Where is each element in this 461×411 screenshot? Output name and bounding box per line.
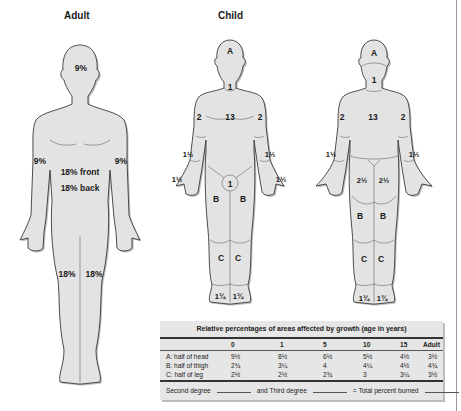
child-front-forearm-right-label: 1½ xyxy=(265,150,275,159)
table-cell: 8½ xyxy=(278,352,287,361)
table-cell: 9½ xyxy=(231,352,240,361)
adult-trunk-front-label: 18% front xyxy=(61,167,100,177)
table-col-header: 1 xyxy=(280,340,284,349)
child-back-upper-arm-left-label: 2 xyxy=(340,112,345,122)
child-front-hand-left-label: 1½ xyxy=(172,175,182,184)
total-blank[interactable] xyxy=(425,387,459,393)
table-col-header: 5 xyxy=(323,340,327,349)
adult-trunk-back-label: 18% back xyxy=(61,183,100,193)
child-back-head-label: A xyxy=(371,48,377,58)
child-front-head-label: A xyxy=(227,46,233,56)
table-divider xyxy=(160,380,443,382)
table-col-header: Adult xyxy=(423,340,440,349)
child-back-forearm-right-label: 1½ xyxy=(409,150,419,159)
child-front-forearm-left-label: 1½ xyxy=(183,150,193,159)
table-cell: 3½ xyxy=(428,352,437,361)
table-cell: 6½ xyxy=(323,352,332,361)
child-back-buttock-left-label: 2½ xyxy=(357,176,367,185)
table-cell: 5½ xyxy=(363,352,372,361)
child-front-genitalia-label: 1 xyxy=(228,179,233,189)
child-title: Child xyxy=(218,10,243,21)
child-front-thigh-right-label: B xyxy=(240,194,246,204)
adult-figure-body xyxy=(20,45,140,384)
child-back-buttock-right-label: 2½ xyxy=(379,176,389,185)
second-degree-label: Second degree xyxy=(166,387,211,394)
child-back-upper-arm-right-label: 2 xyxy=(401,112,406,122)
table-cell: 4 xyxy=(323,361,327,370)
adult-head-label: 9% xyxy=(75,63,87,73)
table-title: Relative percentages of areas affected b… xyxy=(160,323,443,335)
table-cell: 3¼ xyxy=(400,370,409,379)
table-divider xyxy=(160,337,443,339)
table-divider xyxy=(160,350,443,351)
table-cell: 2¾ xyxy=(323,370,332,379)
child-front-foot-right-label: 1¾ xyxy=(233,292,243,301)
child-front-trunk-label: 13 xyxy=(225,112,234,122)
child-back-forearm-left-label: 1½ xyxy=(326,150,336,159)
table-row-label: A: half of head xyxy=(166,352,209,361)
table-cell: 2½ xyxy=(231,370,240,379)
table-cell: 4¼ xyxy=(363,361,372,370)
second-degree-blank[interactable] xyxy=(217,387,251,393)
table-col-header: 0 xyxy=(231,340,235,349)
right-divider-line xyxy=(456,0,457,411)
child-front-upper-arm-right-label: 2 xyxy=(258,112,263,122)
table-row-label: B: half of thigh xyxy=(166,361,208,370)
table-cell: 4¾ xyxy=(428,361,437,370)
table-cell: 4½ xyxy=(400,352,409,361)
child-front-neck-label: 1 xyxy=(228,82,233,92)
table-col-header: 10 xyxy=(363,340,370,349)
table-cell: 3¼ xyxy=(278,361,287,370)
child-back-trunk-label: 13 xyxy=(368,112,377,122)
third-degree-label: and Third degree xyxy=(257,387,307,394)
child-front-leg-right-label: C xyxy=(235,253,241,263)
child-back-thigh-left-label: B xyxy=(357,211,363,221)
adult-title: Adult xyxy=(64,10,90,21)
child-back-neck-label: 1 xyxy=(372,75,377,85)
child-back-leg-left-label: C xyxy=(361,254,367,264)
growth-percentage-table: Relative percentages of areas affected b… xyxy=(160,321,443,400)
table-cell: 4½ xyxy=(400,361,409,370)
table-col-header: 15 xyxy=(400,340,407,349)
adult-left-leg-label: 18% xyxy=(58,269,75,279)
child-front-leg-left-label: C xyxy=(218,253,224,263)
child-back-foot-left-label: 1¾ xyxy=(359,294,369,303)
child-front-foot-left-label: 1¾ xyxy=(215,292,225,301)
child-back-foot-right-label: 1¾ xyxy=(377,294,387,303)
table-cell: 3 xyxy=(363,370,367,379)
adult-left-arm-label: 9% xyxy=(34,156,46,166)
adult-right-arm-label: 9% xyxy=(115,156,127,166)
child-front-thigh-left-label: B xyxy=(213,194,219,204)
table-cell: 2½ xyxy=(278,370,287,379)
table-cell: 2¾ xyxy=(231,361,240,370)
total-label: = Total percent burned xyxy=(353,387,419,394)
table-cell: 3½ xyxy=(428,370,437,379)
child-front-upper-arm-left-label: 2 xyxy=(197,112,202,122)
child-back-thigh-right-label: B xyxy=(380,211,386,221)
child-back-leg-right-label: C xyxy=(378,254,384,264)
child-front-figure xyxy=(176,40,286,306)
third-degree-blank[interactable] xyxy=(313,387,347,393)
adult-right-leg-label: 18% xyxy=(85,269,102,279)
child-front-hand-right-label: 1½ xyxy=(276,175,286,184)
table-row-label: C: half of leg xyxy=(166,370,203,379)
burn-total-formula: Second degreeand Third degree= Total per… xyxy=(166,387,461,394)
